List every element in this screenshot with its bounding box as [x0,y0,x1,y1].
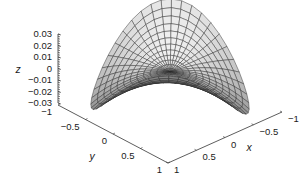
z-tick-label: 0.02 [34,40,53,51]
y-tick-label: 0 [102,135,107,146]
z-tick-label: 0.03 [34,28,53,39]
surface-face [158,76,168,79]
y-tick-mark [141,148,143,149]
z-tick-label: 0 [47,63,52,74]
x-tick-label: 0.5 [203,151,216,162]
z-axis-label: z [14,63,21,75]
z-tick-label: −0.01 [28,74,52,85]
surface-face [165,38,171,45]
y-tick-label: 0.5 [121,150,134,161]
surface-mesh [91,0,249,114]
y-tick-mark [58,104,60,105]
x-tick-label: 0 [231,139,236,150]
x-tick-label: −1 [288,113,299,124]
surface-face [161,0,171,9]
y-tick-mark [86,119,88,120]
y-tick-label: −1 [41,106,52,117]
surface-face [164,31,171,38]
surface-face [171,8,181,18]
x-tick-label: −0.5 [260,126,279,137]
surface-face [162,8,172,17]
surface-face [171,24,179,32]
surface-plot: 0.030.020.010−0.01−0.02−0.03−1−0.500.511… [0,0,307,178]
y-axis-label: y [88,150,95,162]
y-tick-label: −0.5 [61,121,80,132]
x-tick-mark [280,111,282,112]
y-tick-mark [113,133,115,134]
surface-face [163,24,171,32]
x-tick-mark [252,124,254,125]
y-tick-label: 1 [157,164,162,175]
surface-face [171,16,180,25]
surface-face [163,16,172,25]
z-minor-tick [58,103,60,104]
x-tick-mark [195,149,197,150]
x-tick-mark [223,137,225,138]
x-axis-label: x [245,141,252,153]
x-tick-label: 1 [174,164,179,175]
z-tick-label: −0.02 [28,86,52,97]
z-tick-label: 0.01 [34,51,53,62]
